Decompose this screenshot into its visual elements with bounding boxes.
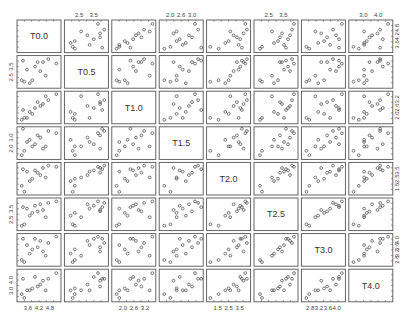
diagonal-panel: T0.5: [64, 56, 108, 89]
axis-tick-label: 3.6: [324, 305, 333, 311]
scatter-panel: [159, 20, 203, 53]
axis-tick-label: 4.0: [374, 12, 383, 18]
scatter-panel: [64, 127, 108, 160]
axis-tick-label: 4.8: [394, 23, 400, 32]
axis-tick-label: 4.0: [8, 275, 14, 284]
variable-label: T2.0: [220, 174, 238, 184]
panel-frame: [159, 20, 203, 53]
variable-label: T3.0: [314, 245, 332, 255]
scatter-panel: [17, 269, 61, 302]
scatter-panel: [17, 56, 61, 89]
diagonal-panel: T3.0: [301, 234, 345, 267]
variable-label: T0.5: [77, 67, 95, 77]
axis-tick-label: 4.0: [394, 235, 400, 244]
axis-tick-label: 3.2: [315, 305, 324, 311]
scatter-panel: [207, 20, 251, 53]
axis-tick-label: 4.0: [332, 305, 341, 311]
scatter-panel: [301, 162, 345, 195]
scatter-panel: [254, 127, 298, 160]
scatter-panel: [64, 91, 108, 124]
diagonal-panel: T1.5: [159, 127, 203, 160]
scatter-panel: [254, 20, 298, 53]
diagonal-panel: T4.0: [349, 269, 393, 302]
scatter-panel: [17, 162, 61, 195]
scatter-panel: [64, 234, 108, 267]
axis-tick-label: 2.0: [8, 144, 14, 153]
panel-frame: [349, 162, 393, 195]
variable-label: T1.0: [125, 103, 143, 113]
scatter-panel: [349, 20, 393, 53]
scatter-panel: [112, 269, 156, 302]
panel-frame: [64, 127, 108, 160]
scatter-panel: [159, 234, 203, 267]
scatter-panel: [349, 127, 393, 160]
axis-tick-label: 2.0: [119, 305, 128, 311]
panel-frame: [112, 56, 156, 89]
panel-frame: [349, 234, 393, 267]
scatter-panel: [349, 56, 393, 89]
axis-tick-label: 3.5: [394, 166, 400, 175]
scatter-panel: [254, 234, 298, 267]
scatter-panel: [159, 56, 203, 89]
scatter-panel: [159, 198, 203, 231]
axis-tick-label: 2.0: [166, 12, 175, 18]
panel-frame: [17, 162, 61, 195]
axis-tick-label: 3.2: [141, 305, 150, 311]
panel-frame: [64, 162, 108, 195]
axis-tick-label: 3.5: [90, 12, 99, 18]
axis-tick-label: 2.6: [177, 12, 186, 18]
scatter-panel: [301, 91, 345, 124]
scatter-panel: [207, 127, 251, 160]
scatter-panel: [301, 20, 345, 53]
diagonal-panel: T0.0: [17, 20, 61, 53]
panel-frame: [159, 56, 203, 89]
axis-tick-label: 3.5: [8, 62, 14, 71]
scatter-panel: [64, 20, 108, 53]
axis-tick-label: 2.5: [8, 215, 14, 224]
scatter-panel: [301, 127, 345, 160]
axis-tick-label: 3.0: [359, 12, 368, 18]
scatter-panel: [254, 91, 298, 124]
axis-tick-label: 2.5: [264, 12, 273, 18]
panel-frame: [159, 269, 203, 302]
variable-label: T2.5: [267, 209, 285, 219]
axis-tick-label: 2.5: [75, 12, 84, 18]
panel-frame: [349, 127, 393, 160]
scatter-panel: [17, 91, 61, 124]
panel-frame: [254, 162, 298, 195]
scatter-panel: [254, 56, 298, 89]
scatter-panel: [159, 91, 203, 124]
panel-frame: [64, 91, 108, 124]
axis-tick-label: 3.5: [279, 12, 288, 18]
scatter-panel: [112, 20, 156, 53]
axis-tick-label: 2.5: [224, 305, 233, 311]
scatter-panel: [207, 56, 251, 89]
scatter-panel: [349, 91, 393, 124]
scatter-panel: [112, 234, 156, 267]
axis-tick-label: 3.5: [8, 204, 14, 213]
scatter-panel: [207, 234, 251, 267]
diagonal-panel: T1.0: [112, 91, 156, 124]
scatter-panel: [112, 56, 156, 89]
scatter-panel: [159, 269, 203, 302]
diagonal-panel: T2.0: [207, 162, 251, 195]
scatter-panel: [349, 162, 393, 195]
axis-tick-label: 2.5: [8, 73, 14, 82]
scatter-panel: [17, 234, 61, 267]
panel-frame: [349, 91, 393, 124]
axis-tick-label: 1.5: [213, 305, 222, 311]
axis-tick-label: 2.8: [306, 305, 315, 311]
panel-frame: [207, 127, 251, 160]
variable-label: T4.0: [362, 281, 380, 291]
scatter-panel: [301, 269, 345, 302]
scatter-panel: [64, 198, 108, 231]
scatterplot-matrix: T0.0T0.5T1.0T1.5T2.0T2.5T3.0T4.02.53.52.…: [0, 0, 406, 328]
scatter-panel: [112, 198, 156, 231]
axis-tick-label: 3.0: [8, 133, 14, 142]
scatter-panel: [17, 127, 61, 160]
axis-tick-label: 3.0: [8, 286, 14, 295]
scatter-panel: [254, 269, 298, 302]
diagonal-panel: T2.5: [254, 198, 298, 231]
scatter-panel: [64, 162, 108, 195]
panel-frame: [349, 198, 393, 231]
